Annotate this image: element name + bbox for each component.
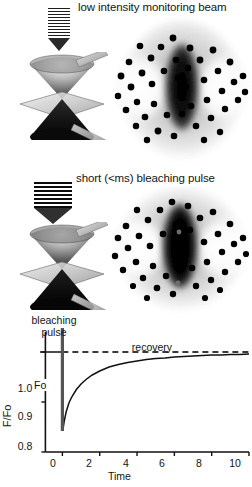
beam-stripes	[48, 8, 70, 38]
cell-micrograph-bleached-icon	[110, 186, 252, 316]
y-tick-label-1.0: 1.0	[12, 382, 38, 394]
bleaching-pulse-line-2: pulse	[24, 327, 84, 339]
recovery-chart: bleaching pulse recovery Fo F/Fo Time 1.…	[0, 312, 252, 487]
cell-micrograph-unbleached-icon	[112, 14, 252, 172]
double-cone-focus-icon	[16, 52, 108, 140]
frap-figure: low intensity monitoring beam	[0, 0, 252, 487]
striped-down-arrow-bold-icon	[34, 182, 72, 224]
x-tick-label-10: 10	[225, 457, 245, 469]
double-cone-focus-icon-bleaching	[16, 222, 108, 310]
panel-monitoring-title: low intensity monitoring beam	[78, 1, 227, 13]
panel-bleaching-title: short (<ms) bleaching pulse	[76, 172, 215, 184]
x-tick-label-4: 4	[117, 457, 135, 469]
bleaching-pulse-bar	[61, 328, 64, 431]
x-tick-label-2: 2	[80, 457, 98, 469]
recovery-annotation: recovery	[122, 341, 182, 353]
bleaching-pulse-annotation: bleaching pulse	[24, 315, 84, 338]
striped-down-arrow-icon	[48, 8, 70, 51]
x-tick-label-6: 6	[153, 457, 171, 469]
x-tick-label-0: 0	[44, 457, 62, 469]
cell-lobe-left	[110, 218, 166, 278]
series-f-fo-recovery-curve	[63, 354, 249, 431]
panel-monitoring: low intensity monitoring beam	[0, 0, 252, 170]
cell-nucleus	[165, 42, 199, 132]
beam-arrowhead	[48, 38, 70, 51]
x-tick-label-8: 8	[190, 457, 208, 469]
y-tick-label-0.8: 0.8	[12, 440, 38, 452]
y-tick-label-0.9: 0.9	[12, 410, 38, 422]
cell-lobe-left	[113, 55, 167, 121]
chart-x-axis-label: Time	[108, 470, 131, 482]
bleaching-pulse-line-1: bleaching	[24, 315, 84, 327]
beam-stripes-bold	[34, 182, 72, 208]
